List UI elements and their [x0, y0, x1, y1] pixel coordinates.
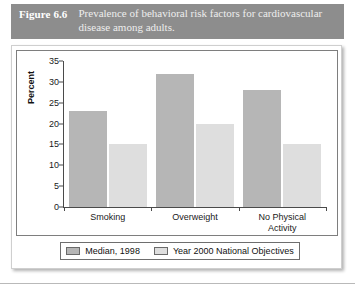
bar [243, 90, 281, 207]
y-axis-tick-label: 25 [17, 98, 64, 108]
y-axis-tick-label: 10 [17, 160, 64, 170]
figure-plate: Percent 05101520253035 SmokingOverweight… [11, 45, 342, 269]
y-axis-tick-label: 15 [17, 139, 64, 149]
bar [156, 74, 194, 207]
page-bottom-rule [0, 283, 355, 284]
legend-item: Median, 1998 [66, 246, 140, 256]
x-axis-tick-mark [151, 207, 152, 211]
x-axis-category-label: No PhysicalActivity [239, 212, 326, 234]
bar-group [64, 61, 151, 207]
x-axis-tick-mark [64, 207, 65, 211]
x-axis-category-label: Overweight [151, 212, 238, 234]
y-axis-tick-label: 0 [17, 202, 64, 212]
chart-legend: Median, 1998Year 2000 National Objective… [60, 242, 300, 260]
y-axis-tick-label: 30 [17, 77, 64, 87]
bar-groups [64, 61, 326, 207]
legend-swatch [66, 247, 80, 255]
legend-label: Year 2000 National Objectives [173, 246, 294, 256]
bar-group [239, 61, 326, 207]
bar-group [151, 61, 238, 207]
bar [283, 144, 321, 207]
legend-label: Median, 1998 [85, 246, 140, 256]
y-axis-tick-label: 5 [17, 181, 64, 191]
bar [109, 144, 147, 207]
y-axis-tick-label: 20 [17, 119, 64, 129]
x-axis-category-labels: SmokingOverweightNo PhysicalActivity [64, 212, 326, 234]
legend-swatch [154, 247, 168, 255]
chart-frame: Percent 05101520253035 SmokingOverweight… [16, 50, 338, 236]
figure-caption-band: Figure 6.6 Prevalence of behavioral risk… [11, 4, 344, 39]
x-axis-line [63, 207, 326, 208]
x-axis-category-label: Smoking [64, 212, 151, 234]
figure-number-label: Figure 6.6 [19, 7, 67, 20]
x-axis-tick-mark [326, 207, 327, 211]
figure-caption-text: Prevalence of behavioral risk factors fo… [78, 7, 336, 34]
x-axis-tick-mark [239, 207, 240, 211]
y-axis-tick-label: 35 [17, 56, 64, 66]
bar [196, 124, 234, 207]
legend-item: Year 2000 National Objectives [154, 246, 294, 256]
bar [69, 111, 107, 207]
